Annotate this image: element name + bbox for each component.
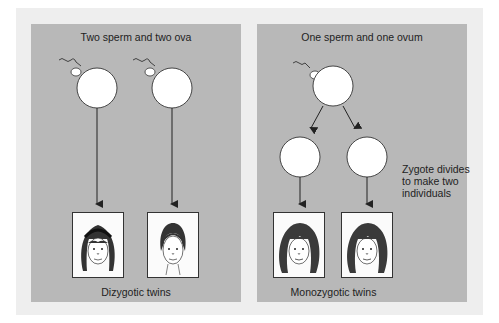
daughter-cell-icon — [280, 137, 320, 177]
twin-portrait-1 — [72, 212, 124, 278]
monozygotic-caption: Monozygotic twins — [257, 286, 410, 298]
dizygotic-panel: Two sperm and two ova — [31, 24, 241, 302]
sperm-icon — [59, 59, 81, 77]
monozygotic-panel: One sperm and one ovum Zygote divides to… — [257, 24, 467, 302]
daughter-cell-icon — [347, 137, 387, 177]
dizygotic-caption: Dizygotic twins — [31, 286, 241, 298]
twin-portrait-2 — [341, 212, 393, 278]
twin-portrait-2 — [147, 212, 199, 278]
zygote-divides-note: Zygote divides to make two individuals — [402, 163, 472, 199]
twin-portrait-1 — [273, 212, 325, 278]
dizygotic-diagram — [31, 24, 241, 302]
zygote-icon — [313, 66, 353, 106]
face-icon — [342, 213, 392, 277]
ovum-icon — [77, 68, 117, 108]
face-icon — [148, 213, 198, 277]
face-icon — [73, 213, 123, 277]
sperm-icon — [133, 59, 155, 77]
ovum-icon — [152, 68, 192, 108]
face-icon — [274, 213, 324, 277]
